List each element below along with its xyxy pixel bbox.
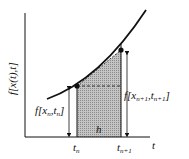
point-tn	[74, 83, 79, 88]
step-label: h	[96, 123, 102, 135]
right-value-label: f[xn+1,tn+1]	[124, 89, 170, 103]
diagram-canvas: f[x(t),t] f[xn,tn] f[xn+1,tn+1] h tn tn+…	[0, 0, 189, 159]
tick-tn: tn	[73, 141, 80, 155]
left-value-label: f[xn,tn]	[35, 104, 64, 118]
y-axis-label: f[x(t),t]	[6, 62, 19, 95]
point-tn1	[118, 47, 123, 52]
tick-tn1: tn+1	[117, 141, 132, 155]
x-axis-label: t	[152, 139, 156, 151]
